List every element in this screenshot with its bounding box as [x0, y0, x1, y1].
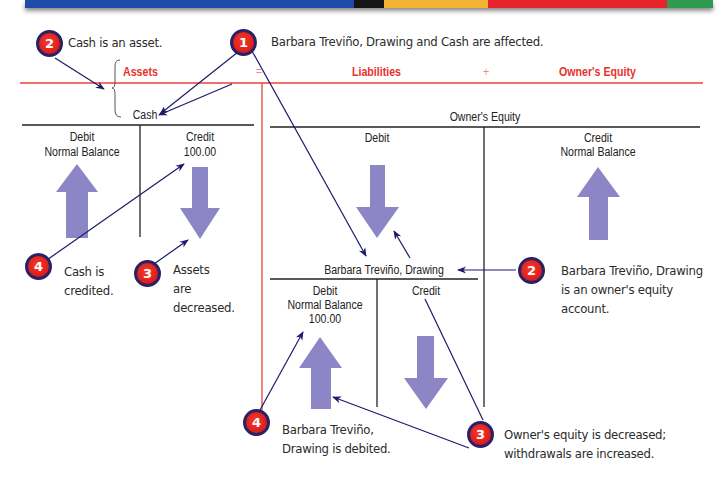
equation-equals: = — [256, 64, 262, 78]
equation-owners-equity: Owner's Equity — [559, 65, 636, 79]
callout-badge-1-affected: 1 — [230, 29, 257, 56]
callout-badge-3-oe-decreased: 3 — [467, 421, 494, 448]
cash-credit-header: Credit — [174, 130, 227, 144]
callout-text-cash-is-asset: Cash is an asset. — [68, 33, 162, 52]
assets-brace — [112, 60, 121, 117]
callout-text-cash-credited-line2: credited. — [64, 281, 113, 300]
callout-badge-2-drawing-oe: 2 — [518, 257, 545, 284]
callout-text-drawing-debited-line1: Barbara Treviño, — [282, 420, 374, 439]
oe-credit-increase-arrow — [577, 167, 620, 240]
cash-credit-amount: 100.00 — [174, 145, 227, 159]
drawing-debit-normal-balance: Normal Balance — [283, 298, 367, 312]
drawing-credit-header: Credit — [400, 284, 453, 298]
callout-text-oe-decreased-line2: withdrawals are increased. — [504, 444, 654, 463]
pointer-1-to-cash — [159, 84, 232, 115]
cash-debit-header: Debit — [45, 130, 119, 144]
drawing-debit-header: Debit — [299, 284, 352, 298]
oe-credit-header: Credit — [572, 131, 625, 145]
pointer-4-to-drawing-debit — [260, 332, 303, 410]
cash-debit-increase-arrow — [56, 164, 98, 238]
callout-badge-3-assets-decreased: 3 — [134, 260, 161, 287]
equation-plus: + — [483, 65, 489, 79]
callout-badge-4-cash-credited: 4 — [25, 253, 52, 280]
callout-text-drawing-oe-line3: account. — [561, 299, 609, 318]
pointer-1-to-drawing — [252, 51, 366, 256]
pointer-3-to-oe-arrow — [394, 231, 410, 258]
callout-text-accounts-affected: Barbara Treviño, Drawing and Cash are af… — [271, 32, 543, 51]
cash-account-title: Cash — [127, 108, 162, 122]
oe-debit-header: Debit — [351, 131, 404, 145]
equation-assets: Assets — [123, 65, 158, 79]
callout-text-drawing-oe-line2: is an owner's equity — [561, 280, 673, 299]
callout-text-cash-credited-line1: Cash is — [64, 262, 104, 281]
callout-badge-2-cash-asset: 2 — [36, 30, 63, 57]
drawing-account-title: Barbara Treviño, Drawing — [318, 263, 450, 277]
oe-debit-decrease-arrow — [356, 165, 399, 238]
drawing-credit-decrease-arrow — [404, 336, 448, 409]
callout-text-drawing-debited-line2: Drawing is debited. — [282, 439, 391, 458]
callout-text-assets-decreased-line3: decreased. — [173, 298, 235, 317]
callout-text-oe-decreased-line1: Owner's equity is decreased; — [504, 425, 666, 444]
oe-account-title: Owner's Equity — [428, 110, 542, 124]
callout-text-assets-decreased-line1: Assets — [173, 260, 209, 279]
equation-liabilities: Liabilities — [352, 65, 401, 79]
callout-badge-4-drawing-debited: 4 — [243, 409, 270, 436]
pointer-4-to-cash-credit — [44, 164, 184, 262]
pointer-2-to-assets — [55, 58, 104, 89]
drawing-debit-amount: 100.00 — [299, 312, 352, 326]
callout-text-drawing-oe-line1: Barbara Treviño, Drawing — [561, 261, 703, 280]
oe-credit-normal-balance: Normal Balance — [556, 145, 640, 159]
callout-text-assets-decreased-line2: are — [173, 279, 191, 298]
cash-credit-decrease-arrow — [180, 167, 220, 239]
cash-debit-normal-balance: Normal Balance — [41, 145, 124, 159]
